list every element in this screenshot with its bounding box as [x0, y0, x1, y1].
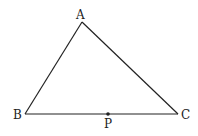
label-p: P: [104, 117, 112, 131]
triangle-diagram: A B C P: [0, 0, 198, 136]
label-a: A: [75, 8, 85, 22]
segment-ab: [25, 22, 82, 114]
label-c: C: [181, 108, 190, 122]
label-b: B: [13, 108, 22, 122]
segment-ac: [82, 22, 178, 114]
point-p-dot: [106, 112, 110, 116]
